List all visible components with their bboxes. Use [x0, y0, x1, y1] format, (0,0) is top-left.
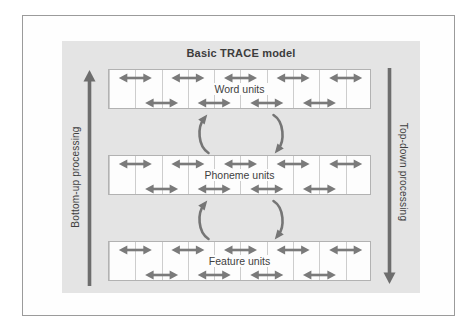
down-curved-arrow-icon: [268, 199, 292, 241]
up-curved-arrow-icon: [190, 199, 214, 241]
bottom-up-processing-label: Bottom-up processing: [70, 126, 81, 227]
bottom-up-arrow-icon: [83, 70, 96, 286]
top-down-arrow-icon: [383, 68, 396, 284]
word-units-box: Word units: [108, 69, 371, 109]
figure-page: ) Basic TRACE model Bottom-up processing…: [0, 0, 462, 332]
diagram-title: Basic TRACE model: [62, 47, 420, 59]
down-curved-arrow-icon: [268, 113, 292, 155]
up-curved-arrow-icon: [190, 113, 214, 155]
trace-model-panel: Basic TRACE model Bottom-up processing T…: [62, 41, 420, 293]
phoneme-units-box: Phoneme units: [108, 155, 371, 195]
figure-frame: Basic TRACE model Bottom-up processing T…: [22, 15, 455, 316]
feature-units-box: Feature units: [108, 241, 371, 281]
phoneme-units-label: Phoneme units: [200, 169, 278, 181]
top-down-processing-label: Top-down processing: [398, 123, 409, 221]
feature-units-label: Feature units: [205, 255, 274, 267]
word-units-label: Word units: [211, 83, 269, 95]
